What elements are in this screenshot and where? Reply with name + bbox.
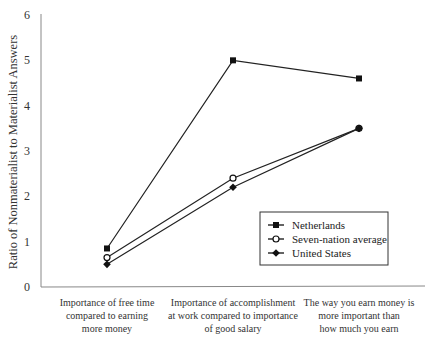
y-tick-label: 6 xyxy=(24,8,30,22)
legend: NetherlandsSeven-nation averageUnited St… xyxy=(260,212,388,265)
x-category-label-line: compared to earning xyxy=(66,310,148,321)
data-point-seven-nation-average xyxy=(230,175,236,181)
x-category-label-line: how much you earn xyxy=(319,323,398,334)
y-tick-labels: 0123456 xyxy=(24,8,30,294)
x-category-label-line: more money xyxy=(82,323,132,334)
y-tick-label: 4 xyxy=(24,99,30,113)
data-point-netherlands xyxy=(230,57,236,63)
x-category-label-line: at work compared to importance xyxy=(168,310,299,321)
data-point-united-states xyxy=(103,261,111,269)
data-point-netherlands xyxy=(104,245,110,251)
x-category-label: Importance of free timecompared to earni… xyxy=(60,297,155,334)
y-tick-label: 5 xyxy=(24,53,30,67)
x-category-label-line: more important than xyxy=(318,310,400,321)
legend-label: United States xyxy=(292,247,351,259)
x-category-label: Importance of accomplishmentat work comp… xyxy=(168,297,299,334)
y-tick-label: 3 xyxy=(24,144,30,158)
data-point-united-states xyxy=(355,125,363,133)
data-point-united-states xyxy=(229,183,237,191)
data-point-netherlands xyxy=(356,75,362,81)
y-tick-label: 2 xyxy=(24,189,30,203)
x-category-label-line: Importance of free time xyxy=(60,297,155,308)
legend-marker-netherlands xyxy=(273,222,279,228)
data-point-seven-nation-average xyxy=(104,255,110,261)
legend-label: Seven-nation average xyxy=(292,233,387,245)
x-category-labels: Importance of free timecompared to earni… xyxy=(60,297,415,334)
y-tick-label: 0 xyxy=(24,280,30,294)
legend-marker-seven-nation-average xyxy=(273,236,279,242)
x-category-label: The way you earn money ismore important … xyxy=(304,297,415,334)
x-category-label-line: Importance of accomplishment xyxy=(171,297,296,308)
y-axis-title: Ratio of Nonmaterialist to Materialist A… xyxy=(6,35,20,269)
line-chart: Ratio of Nonmaterialist to Materialist A… xyxy=(0,0,432,341)
x-axis-line xyxy=(41,286,425,287)
y-tick-label: 1 xyxy=(24,235,30,249)
x-category-label-line: of good salary xyxy=(204,323,261,334)
legend-label: Netherlands xyxy=(292,219,345,231)
x-category-label-line: The way you earn money is xyxy=(304,297,415,308)
